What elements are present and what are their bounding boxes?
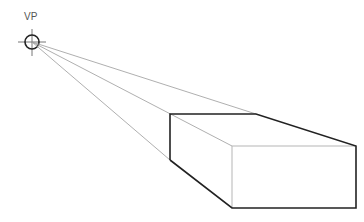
perspective-diagram — [0, 0, 364, 222]
guide-line-top-right — [32, 42, 256, 114]
guide-line-bottom-left — [32, 42, 170, 160]
box-hidden-edges — [232, 146, 356, 208]
guide-line-top-left — [32, 42, 232, 146]
perspective-guide-lines — [32, 42, 256, 160]
